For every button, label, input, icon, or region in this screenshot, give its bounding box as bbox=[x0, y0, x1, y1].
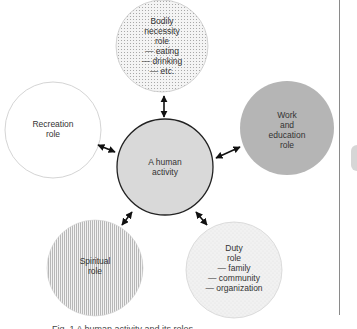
recreation-role-circle bbox=[5, 82, 101, 178]
human-activity-circle bbox=[117, 119, 213, 215]
adjacent-figure-fragment bbox=[351, 145, 357, 171]
page-column-divider bbox=[339, 0, 340, 315]
arrow-center-spiritual bbox=[122, 212, 132, 225]
arrow-center-duty bbox=[196, 212, 207, 225]
bodily-necessity-role-circle bbox=[116, 0, 208, 92]
figure-caption: Fig. 1 A human activity and its roles bbox=[52, 324, 297, 329]
duty-role-circle bbox=[186, 222, 282, 318]
arrow-center-work bbox=[216, 147, 240, 158]
spiritual-role-circle bbox=[47, 220, 143, 316]
work-education-role-circle bbox=[240, 81, 334, 175]
arrow-center-recreation bbox=[98, 145, 115, 152]
